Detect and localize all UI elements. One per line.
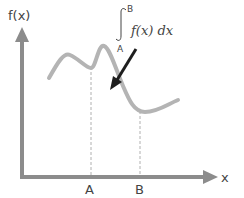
integral-diagram: B A f(x) dx f(x) x A B: [0, 0, 244, 198]
upper-limit: B: [127, 4, 133, 14]
integral-sign-icon: [116, 9, 126, 41]
point-a-label: A: [85, 182, 94, 197]
integrand: f(x) dx: [130, 23, 174, 38]
y-axis-label: f(x): [8, 8, 30, 23]
lower-limit: A: [117, 44, 124, 54]
y-axis-arrowhead-icon: [15, 27, 29, 42]
x-axis-label: x: [221, 170, 229, 185]
point-b-label: B: [135, 182, 144, 197]
x-axis-arrowhead-icon: [203, 170, 218, 184]
